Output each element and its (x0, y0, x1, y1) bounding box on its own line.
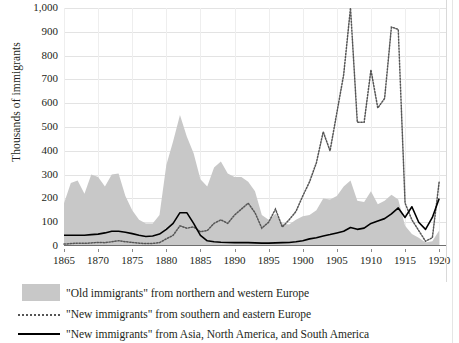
chart-area: Thousands of immigrants 0100200300400500… (0, 0, 459, 282)
y-tick-500: 500 (42, 121, 59, 132)
plot-region (64, 8, 446, 246)
y-tick-1000: 1,000 (33, 2, 58, 13)
series-area-old-immigrants (64, 115, 439, 246)
dotted-line-swatch-icon (18, 314, 60, 316)
x-tick-1915: 1915 (394, 254, 416, 266)
x-axis-tick-labels: 1865187018751880188518901895190019051910… (64, 249, 446, 267)
x-tick-1895: 1895 (258, 254, 280, 266)
y-tick-200: 200 (42, 192, 59, 203)
x-tickmark-1920 (439, 249, 440, 252)
y-tick-0: 0 (53, 240, 59, 251)
legend-label-new-europe: "New immigrants" from southern and easte… (66, 307, 311, 321)
x-tickmark-1890 (235, 249, 236, 252)
x-tickmark-1870 (98, 249, 99, 252)
legend-item-new-europe: "New immigrants" from southern and easte… (0, 307, 440, 326)
x-tickmark-1915 (405, 249, 406, 252)
area-swatch-icon (22, 284, 60, 301)
x-axis-line (64, 245, 446, 246)
y-tick-900: 900 (42, 26, 59, 37)
data-series-layer (64, 8, 446, 246)
immigration-chart-figure: Thousands of immigrants 0100200300400500… (0, 0, 459, 343)
x-tickmark-1905 (337, 249, 338, 252)
x-tick-1870: 1870 (87, 254, 109, 266)
x-tick-1900: 1900 (292, 254, 314, 266)
x-tickmark-1895 (269, 249, 270, 252)
chart-legend: "Old immigrants" from northern and weste… (0, 284, 459, 343)
y-tick-700: 700 (42, 73, 59, 84)
x-tickmark-1885 (200, 249, 201, 252)
x-tick-1875: 1875 (121, 254, 143, 266)
x-tick-1880: 1880 (155, 254, 177, 266)
x-tickmark-1910 (371, 249, 372, 252)
legend-label-new-other: "New immigrants" from Asia, North Americ… (66, 327, 369, 341)
solid-line-swatch-icon (18, 333, 60, 335)
y-axis-tick-labels: 01002003004005006007008009001,000 (0, 0, 62, 260)
x-tickmark-1880 (166, 249, 167, 252)
x-tickmark-1875 (132, 249, 133, 252)
figure-right-rule (446, 0, 447, 282)
y-tick-600: 600 (42, 97, 59, 108)
x-tick-1885: 1885 (189, 254, 211, 266)
x-tick-1905: 1905 (326, 254, 348, 266)
x-tick-1910: 1910 (360, 254, 382, 266)
y-tick-400: 400 (42, 145, 59, 156)
legend-item-old-immigrants: "Old immigrants" from northern and weste… (0, 286, 440, 305)
legend-item-new-other: "New immigrants" from Asia, North Americ… (0, 327, 440, 343)
x-tick-1865: 1865 (53, 254, 75, 266)
y-tick-800: 800 (42, 50, 59, 61)
x-tick-1890: 1890 (224, 254, 246, 266)
y-tick-300: 300 (42, 169, 59, 180)
x-tickmark-1900 (303, 249, 304, 252)
legend-label-old-immigrants: "Old immigrants" from northern and weste… (66, 286, 309, 300)
x-tickmark-1865 (64, 249, 65, 252)
y-tick-100: 100 (42, 216, 59, 227)
